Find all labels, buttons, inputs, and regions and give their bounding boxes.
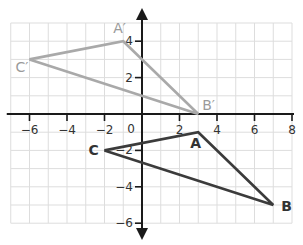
y-axis-up-arrow-icon bbox=[136, 8, 148, 20]
coordinate-plane: −6−4−2246842−2−4−60 ABCA′B′C′ bbox=[0, 0, 303, 245]
y-tick-label: −4 bbox=[115, 180, 133, 194]
y-tick-label: −6 bbox=[115, 216, 133, 230]
x-tick-label: −2 bbox=[96, 123, 114, 137]
vertex-label-a: A bbox=[190, 135, 201, 151]
vertex-label-b-prime: B′ bbox=[202, 97, 215, 113]
x-tick-label: −4 bbox=[58, 123, 76, 137]
y-tick-label: 2 bbox=[125, 71, 133, 85]
vertex-label-c: C bbox=[89, 142, 99, 158]
y-axis-down-arrow-icon bbox=[136, 228, 148, 240]
x-tick-label: 8 bbox=[288, 123, 296, 137]
x-tick-label: 6 bbox=[251, 123, 259, 137]
origin-label: 0 bbox=[127, 122, 135, 136]
vertex-label-b: B bbox=[281, 198, 292, 214]
x-tick-label: −6 bbox=[21, 123, 39, 137]
vertex-label-a-prime: A′ bbox=[113, 20, 126, 36]
x-tick-label: 4 bbox=[213, 123, 221, 137]
vertex-labels: ABCA′B′C′ bbox=[16, 20, 292, 214]
vertex-label-c-prime: C′ bbox=[16, 59, 29, 75]
